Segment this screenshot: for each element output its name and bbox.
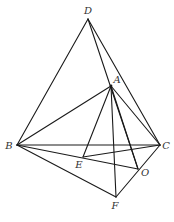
label-C: C <box>162 140 170 151</box>
segment-BF <box>17 145 116 197</box>
point-A-dot <box>110 85 113 88</box>
label-F: F <box>111 200 120 211</box>
label-E: E <box>74 159 83 170</box>
label-A: A <box>112 74 120 85</box>
label-B: B <box>4 140 12 151</box>
segment-CF <box>116 145 160 197</box>
label-O: O <box>141 167 149 178</box>
segment-AF <box>111 86 116 197</box>
segment-DB <box>17 19 88 145</box>
geometry-figure: D A B C E O F <box>0 0 174 222</box>
diagram-canvas: D A B C E O F <box>0 0 174 222</box>
label-D: D <box>83 5 92 16</box>
segment-EC <box>83 145 160 157</box>
segment-AC <box>111 86 160 145</box>
segment-AB <box>17 86 111 145</box>
segments-group <box>17 19 160 197</box>
labels-group: D A B C E O F <box>4 5 170 211</box>
points-group <box>110 85 113 88</box>
segment-AE <box>83 86 111 157</box>
